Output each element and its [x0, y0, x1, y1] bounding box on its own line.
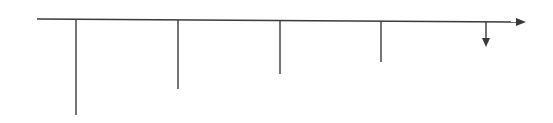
time-axis: [37, 18, 526, 26]
time-axis-line: [37, 19, 518, 22]
cash-flow-diagram: [0, 0, 553, 123]
cash-flow-lines: [76, 19, 490, 115]
axis-arrowhead-icon: [516, 18, 526, 26]
arrow-down-icon: [482, 38, 490, 47]
timeline-diagram: [0, 0, 553, 123]
